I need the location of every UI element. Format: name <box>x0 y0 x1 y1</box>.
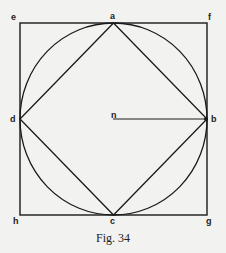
label-f: f <box>208 12 212 22</box>
label-n: n <box>111 110 117 120</box>
label-g: g <box>206 216 212 226</box>
label-d: d <box>10 114 16 124</box>
point-b-dot <box>204 117 208 121</box>
label-a: a <box>110 11 116 21</box>
label-e: e <box>11 12 16 22</box>
figure-caption: Fig. 34 <box>96 231 130 245</box>
label-h: h <box>13 216 19 226</box>
geometry-figure: e a f d n b h c g Fig. 34 <box>0 0 226 253</box>
label-c: c <box>110 216 115 226</box>
label-b: b <box>211 114 217 124</box>
